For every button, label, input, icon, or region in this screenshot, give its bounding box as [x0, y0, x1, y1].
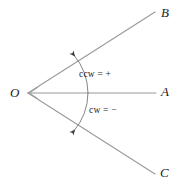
ray-OB [28, 12, 155, 93]
ray-label-A: A [161, 85, 169, 98]
arc-clockwise [74, 93, 89, 132]
arc-label-clockwise: cw = − [89, 106, 117, 116]
ray-label-B: B [161, 6, 169, 19]
figure-canvas [0, 0, 178, 186]
vertex-label-O: O [10, 86, 19, 99]
ray-label-C: C [160, 166, 169, 179]
angle-sign-convention-figure: O A B C ccw = + cw = − [0, 0, 178, 186]
arc-label-counterclockwise: ccw = + [79, 70, 111, 80]
